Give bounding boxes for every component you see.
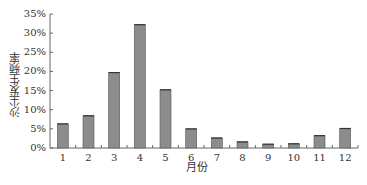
axes	[50, 14, 358, 148]
bar-month-4	[134, 25, 145, 148]
y-tick-label: 5%	[6, 124, 46, 134]
y-tick-label: 30%	[6, 28, 46, 38]
x-tick-label: 11	[310, 153, 330, 163]
x-tick-label: 3	[104, 153, 124, 163]
x-tick-label: 5	[156, 153, 176, 163]
x-tick-label: 12	[335, 153, 355, 163]
bar-month-5	[160, 90, 171, 148]
monthly-dust-frequency-chart: 0%5%10%15%20%25%30%35% 123456789101112 沙…	[0, 0, 367, 185]
x-tick-label: 9	[258, 153, 278, 163]
y-tick-label: 0%	[6, 143, 46, 153]
bar-month-11	[314, 136, 325, 148]
x-tick-label: 2	[79, 153, 99, 163]
bar-month-1	[57, 124, 68, 148]
y-axis-label: 沙尘发生频率	[10, 52, 24, 118]
bar-month-7	[211, 138, 222, 148]
x-tick-label: 4	[130, 153, 150, 163]
bar-month-3	[109, 73, 120, 148]
x-axis-label: 月份	[186, 162, 208, 174]
bar-month-2	[83, 116, 94, 148]
bars	[57, 25, 350, 148]
x-tick-label: 10	[284, 153, 304, 163]
y-tick-label: 35%	[6, 9, 46, 19]
bar-month-8	[237, 142, 248, 148]
x-tick-label: 1	[53, 153, 73, 163]
bar-month-10	[288, 144, 299, 148]
x-tick-label: 7	[207, 153, 227, 163]
x-tick-label: 8	[233, 153, 253, 163]
bar-month-12	[340, 129, 351, 149]
bar-month-6	[186, 129, 197, 148]
